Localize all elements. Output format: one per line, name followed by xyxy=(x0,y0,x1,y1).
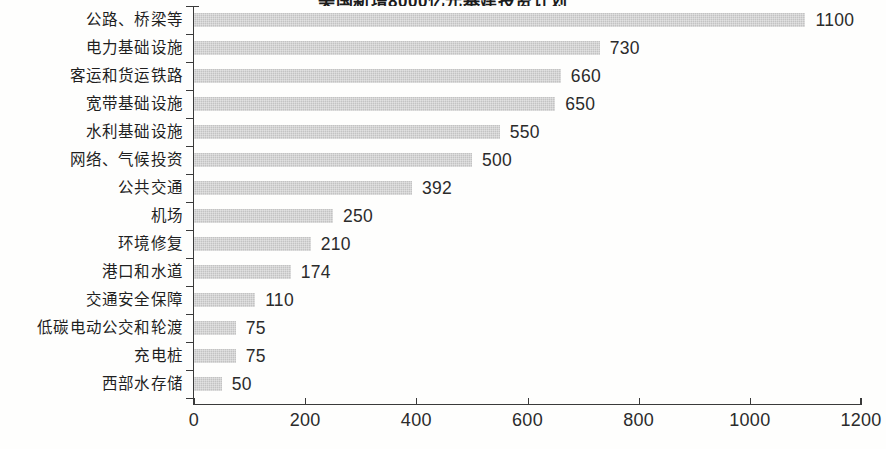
bar-row: 交通安全保障110 xyxy=(0,286,886,314)
bar xyxy=(194,209,333,223)
bar-value-label: 250 xyxy=(343,202,373,230)
category-label: 港口和水道 xyxy=(0,258,183,286)
bar xyxy=(194,349,236,363)
bar-value-label: 730 xyxy=(610,34,640,62)
bar xyxy=(194,69,561,83)
category-label: 环境修复 xyxy=(0,230,183,258)
category-label: 机场 xyxy=(0,202,183,230)
bar-row: 环境修复210 xyxy=(0,230,886,258)
bar-chart: 美国新增8000亿元基建投资计划 020040060080010001200 公… xyxy=(0,0,886,449)
bar-row: 低碳电动公交和轮渡75 xyxy=(0,314,886,342)
bar xyxy=(194,153,472,167)
bar-value-label: 75 xyxy=(246,342,266,370)
x-axis-tick xyxy=(861,398,862,405)
bar xyxy=(194,237,311,251)
bar-row: 客运和货运铁路660 xyxy=(0,62,886,90)
bar-row: 网络、气候投资500 xyxy=(0,146,886,174)
x-axis-tick-label: 400 xyxy=(376,410,456,431)
bar xyxy=(194,321,236,335)
bar-row: 宽带基础设施650 xyxy=(0,90,886,118)
category-label: 交通安全保障 xyxy=(0,286,183,314)
bar xyxy=(194,181,412,195)
category-label: 宽带基础设施 xyxy=(0,90,183,118)
bar-value-label: 210 xyxy=(321,230,351,258)
category-label: 公共交通 xyxy=(0,174,183,202)
bar-value-label: 75 xyxy=(246,314,266,342)
bar xyxy=(194,377,222,391)
y-axis-tick xyxy=(186,398,193,399)
x-axis-tick-label: 200 xyxy=(265,410,345,431)
bar xyxy=(194,97,555,111)
category-label: 西部水存储 xyxy=(0,370,183,398)
x-axis-tick xyxy=(194,398,195,405)
category-label: 充电桩 xyxy=(0,342,183,370)
bar xyxy=(194,265,291,279)
bar-row: 机场250 xyxy=(0,202,886,230)
bar-value-label: 110 xyxy=(265,286,294,314)
x-axis-tick xyxy=(528,398,529,405)
bar-value-label: 392 xyxy=(422,174,452,202)
x-axis-tick xyxy=(639,398,640,405)
bar-row: 公共交通392 xyxy=(0,174,886,202)
bar-row: 水利基础设施550 xyxy=(0,118,886,146)
bar xyxy=(194,41,600,55)
x-axis-tick-label: 600 xyxy=(488,410,568,431)
x-axis-tick xyxy=(305,398,306,405)
bar-value-label: 660 xyxy=(571,62,601,90)
category-label: 水利基础设施 xyxy=(0,118,183,146)
x-axis-tick-label: 1000 xyxy=(710,410,790,431)
bar-row: 港口和水道174 xyxy=(0,258,886,286)
x-axis-tick-label: 0 xyxy=(154,410,234,431)
bar-row: 充电桩75 xyxy=(0,342,886,370)
x-axis-tick xyxy=(750,398,751,405)
bar-value-label: 50 xyxy=(232,370,252,398)
bar xyxy=(194,13,805,27)
bar-row: 电力基础设施730 xyxy=(0,34,886,62)
x-axis-tick xyxy=(416,398,417,405)
bar xyxy=(194,293,255,307)
bar-row: 公路、桥梁等1100 xyxy=(0,6,886,34)
bar-row: 西部水存储50 xyxy=(0,370,886,398)
category-label: 低碳电动公交和轮渡 xyxy=(0,314,183,342)
bar-value-label: 500 xyxy=(482,146,512,174)
x-axis-tick-label: 800 xyxy=(599,410,679,431)
category-label: 电力基础设施 xyxy=(0,34,183,62)
category-label: 公路、桥梁等 xyxy=(0,6,183,34)
x-axis-tick-label: 1200 xyxy=(821,410,886,431)
bar-value-label: 174 xyxy=(301,258,331,286)
bar-value-label: 550 xyxy=(510,118,540,146)
category-label: 客运和货运铁路 xyxy=(0,62,183,90)
bar-value-label: 650 xyxy=(565,90,595,118)
bar xyxy=(194,125,500,139)
bar-value-label: 1100 xyxy=(815,6,854,34)
category-label: 网络、气候投资 xyxy=(0,146,183,174)
